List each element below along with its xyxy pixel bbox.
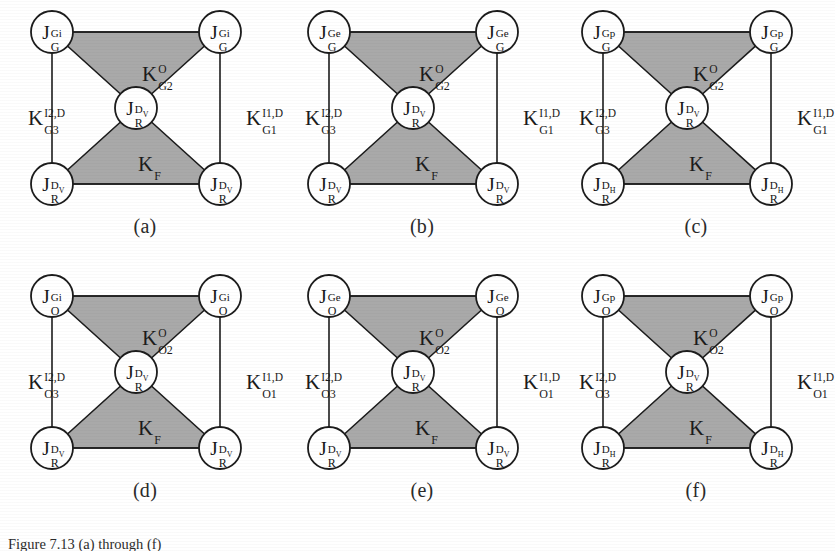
panel-c-lower-region-label: KF — [689, 154, 704, 175]
panel-a-right-edge-label: KI1,DG1 — [246, 108, 261, 129]
panel-d-node-label-bottom-left: JDVR — [42, 439, 49, 458]
panel-f-diagram: JGpOJGpOJDHRJDHRJDVRKOO2KFKI2,DO3KI1,DO1 — [557, 268, 835, 483]
panel-d-node-label-top-right: JGiO — [210, 287, 217, 306]
panel-e-left-edge-label: KI2,DO3 — [305, 372, 320, 393]
panel-a-node-label-bottom-left: JDVR — [42, 175, 49, 194]
panel-c-node-label-center: JDVR — [677, 99, 684, 118]
panel-a-node-label-bottom-right: JDVR — [210, 175, 217, 194]
panel-e: JGeOJGeOJDVRJDVRJDVRKOO2KFKI2,DO3KI1,DO1… — [283, 268, 561, 530]
panel-b-right-edge-label: KI1,DG1 — [523, 108, 538, 129]
panel-e-node-label-top-right: JGeO — [487, 287, 494, 306]
panel-d-left-edge-label: KI2,DO3 — [28, 372, 43, 393]
panel-b-node-label-top-right: JGeG — [487, 23, 494, 42]
panel-a-diagram: JGiGJGiGJDVRJDVRJDVRKOG2KFKI2,DG3KI1,DG1 — [6, 4, 284, 219]
panel-a-left-edge-label: KI2,DG3 — [28, 108, 43, 129]
panel-c-upper-region-label: KOG2 — [693, 64, 708, 85]
figure-root: JGiGJGiGJDVRJDVRJDVRKOG2KFKI2,DG3KI1,DG1… — [0, 0, 835, 551]
panel-f-node-label-center: JDVR — [677, 363, 684, 382]
panel-b-caption: (b) — [283, 216, 561, 236]
panel-c-node-label-top-left: JGpG — [593, 23, 600, 42]
panel-d-right-edge-label: KI1,DO1 — [246, 372, 261, 393]
panel-c-left-edge-label: KI2,DG3 — [579, 108, 594, 129]
panel-d-node-label-center: JDVR — [126, 363, 133, 382]
panel-f-node-label-top-left: JGpO — [593, 287, 600, 306]
panel-f-right-edge-label: KI1,DO1 — [797, 372, 812, 393]
panel-f-node-label-bottom-left: JDHR — [593, 439, 600, 458]
panel-c-node-label-top-right: JGpG — [761, 23, 768, 42]
panel-f-node-label-bottom-right: JDHR — [761, 439, 768, 458]
panel-f-lower-region-label: KF — [689, 418, 704, 439]
panel-e-lower-region-label: KF — [415, 418, 430, 439]
panel-f-upper-region-label: KOO2 — [693, 328, 708, 349]
panel-b-node-label-center: JDVR — [403, 99, 410, 118]
panel-c-node-label-bottom-left: JDHR — [593, 175, 600, 194]
panel-e-node-label-top-left: JGeO — [319, 287, 326, 306]
panel-f: JGpOJGpOJDHRJDHRJDVRKOO2KFKI2,DO3KI1,DO1… — [557, 268, 835, 530]
panel-a-node-label-top-right: JGiG — [210, 23, 217, 42]
panel-d-upper-region-label: KOO2 — [142, 328, 157, 349]
panel-c-diagram: JGpGJGpGJDHRJDHRJDVRKOG2KFKI2,DG3KI1,DG1 — [557, 4, 835, 219]
panel-d-caption: (d) — [6, 480, 284, 500]
panel-a-node-label-center: JDVR — [126, 99, 133, 118]
panel-a: JGiGJGiGJDVRJDVRJDVRKOG2KFKI2,DG3KI1,DG1… — [6, 4, 284, 266]
panel-a-node-label-top-left: JGiG — [42, 23, 49, 42]
panel-e-right-edge-label: KI1,DO1 — [523, 372, 538, 393]
panel-b: JGeGJGeGJDVRJDVRJDVRKOG2KFKI2,DG3KI1,DG1… — [283, 4, 561, 266]
panel-d-diagram: JGiOJGiOJDVRJDVRJDVRKOO2KFKI2,DO3KI1,DO1 — [6, 268, 284, 483]
panel-b-node-label-bottom-left: JDVR — [319, 175, 326, 194]
panel-f-caption: (f) — [557, 480, 835, 500]
panel-f-node-label-top-right: JGpO — [761, 287, 768, 306]
panel-e-caption: (e) — [283, 480, 561, 500]
panel-f-left-edge-label: KI2,DO3 — [579, 372, 594, 393]
figure-caption: Figure 7.13 (a) through (f) — [8, 536, 828, 551]
panel-c-right-edge-label: KI1,DG1 — [797, 108, 812, 129]
panel-e-diagram: JGeOJGeOJDVRJDVRJDVRKOO2KFKI2,DO3KI1,DO1 — [283, 268, 561, 483]
panel-d-node-label-top-left: JGiO — [42, 287, 49, 306]
panel-a-caption: (a) — [6, 216, 284, 236]
panel-a-upper-region-label: KOG2 — [142, 64, 157, 85]
panel-e-node-label-center: JDVR — [403, 363, 410, 382]
panel-b-left-edge-label: KI2,DG3 — [305, 108, 320, 129]
panel-b-lower-region-label: KF — [415, 154, 430, 175]
panel-b-upper-region-label: KOG2 — [419, 64, 434, 85]
panel-b-node-label-top-left: JGeG — [319, 23, 326, 42]
panel-d-lower-region-label: KF — [138, 418, 153, 439]
panel-c: JGpGJGpGJDHRJDHRJDVRKOG2KFKI2,DG3KI1,DG1… — [557, 4, 835, 266]
panel-e-node-label-bottom-right: JDVR — [487, 439, 494, 458]
panel-e-node-label-bottom-left: JDVR — [319, 439, 326, 458]
panel-d: JGiOJGiOJDVRJDVRJDVRKOO2KFKI2,DO3KI1,DO1… — [6, 268, 284, 530]
panel-e-upper-region-label: KOO2 — [419, 328, 434, 349]
panel-c-node-label-bottom-right: JDHR — [761, 175, 768, 194]
panel-b-diagram: JGeGJGeGJDVRJDVRJDVRKOG2KFKI2,DG3KI1,DG1 — [283, 4, 561, 219]
panel-c-caption: (c) — [557, 216, 835, 236]
panel-a-lower-region-label: KF — [138, 154, 153, 175]
panel-b-node-label-bottom-right: JDVR — [487, 175, 494, 194]
panel-d-node-label-bottom-right: JDVR — [210, 439, 217, 458]
